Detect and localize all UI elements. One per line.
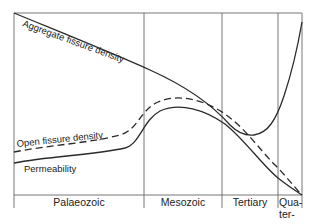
frame bbox=[14, 13, 302, 208]
period-palaeozoic: Palaeozoic bbox=[53, 196, 104, 208]
aggregate-fissure-density-label: Aggregate fissure density bbox=[21, 18, 126, 65]
open-fissure-density-label: Open fissure density bbox=[16, 129, 104, 149]
period-quaternary-line2: ter- bbox=[279, 208, 295, 220]
period-quaternary-line1: Qua- bbox=[279, 196, 303, 208]
period-quaternary-line3: nary bbox=[279, 220, 300, 224]
period-mesozoic: Mesozoic bbox=[161, 196, 205, 208]
geologic-time-diagram: Aggregate fissure density Open fissure d… bbox=[0, 0, 314, 224]
permeability-curve bbox=[14, 107, 302, 195]
period-tertiary: Tertiary bbox=[233, 196, 268, 208]
permeability-label: Permeability bbox=[24, 163, 77, 174]
